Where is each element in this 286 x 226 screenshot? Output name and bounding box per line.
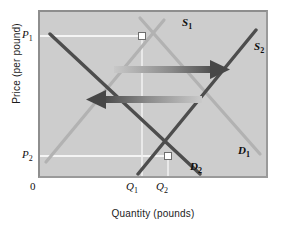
curve-label-s1: S1 <box>182 16 192 31</box>
equilibrium-marker-2 <box>165 153 172 160</box>
curve-label-d1: D1 <box>238 144 250 159</box>
shift-left-arrow <box>86 90 202 109</box>
origin-label: 0 <box>30 180 36 192</box>
y-axis-title: Price (per pound) <box>11 4 22 124</box>
y-tick-p1: P1 <box>22 28 33 43</box>
supply-demand-figure: S1 S2 D1 D2 P1 P2 Q1 Q2 0 Price (per pou… <box>0 0 286 226</box>
x-tick-q2: Q2 <box>156 180 168 195</box>
y-tick-p2: P2 <box>22 148 33 163</box>
x-axis-title: Quantity (pounds) <box>38 208 268 219</box>
curve-label-s2: S2 <box>254 40 264 55</box>
chart-svg <box>40 12 266 176</box>
curve-label-d2: D2 <box>190 160 202 175</box>
x-tick-q1: Q1 <box>126 180 138 195</box>
clipped-caption-strip <box>0 0 286 7</box>
shift-right-arrow <box>114 60 230 79</box>
curve-d2 <box>50 34 200 174</box>
plot-area: S1 S2 D1 D2 <box>38 10 268 178</box>
equilibrium-marker-1 <box>139 33 146 40</box>
